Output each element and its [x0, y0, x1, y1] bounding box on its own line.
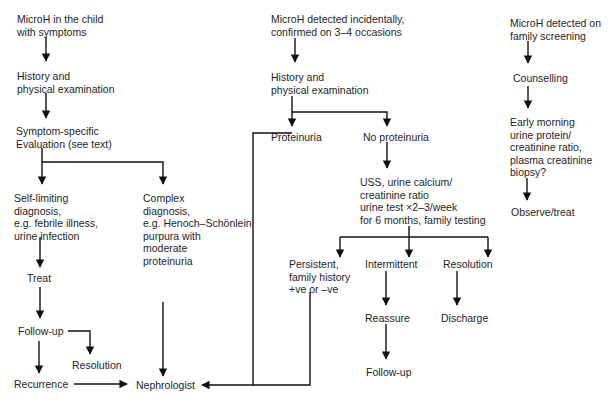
node-history-exam-2: History and physical examination: [271, 71, 368, 96]
node-counselling: Counselling: [513, 72, 568, 85]
node-treat: Treat: [27, 272, 51, 285]
node-recurrence: Recurrence: [14, 378, 68, 391]
node-follow-up-2: Follow-up: [366, 366, 412, 379]
node-history-exam-1: History and physical examination: [17, 70, 114, 95]
node-persistent: Persistent, family history +ve or –ve: [289, 258, 350, 296]
node-microh-incidental: MicroH detected incidentally, confirmed …: [271, 13, 404, 38]
node-resolution-2: Resolution: [443, 258, 493, 271]
node-uss-tests: USS, urine calcium/ creatinine ratio uri…: [360, 176, 485, 226]
node-no-proteinuria: No proteinuria: [363, 131, 429, 144]
node-intermittent: Intermittent: [365, 258, 418, 271]
node-proteinuria: Proteinuria: [271, 131, 322, 144]
node-microh-family: MicroH detected on family screening: [510, 17, 601, 42]
node-resolution-1: Resolution: [72, 359, 122, 372]
node-observe-treat: Observe/treat: [511, 206, 575, 219]
node-reassure: Reassure: [365, 312, 410, 325]
node-early-morning-tests: Early morning urine protein/ creatinine …: [510, 116, 592, 179]
node-complex-diagnosis: Complex diagnosis, e.g. Henoch–Schönlein…: [143, 192, 252, 267]
node-microh-symptoms: MicroH in the child with symptoms: [17, 13, 103, 38]
node-symptom-evaluation: Symptom-specific Evaluation (see text): [16, 125, 112, 150]
node-nephrologist: Nephrologist: [136, 379, 195, 392]
node-follow-up-1: Follow-up: [18, 325, 64, 338]
node-self-limiting: Self-limiting diagnosis, e.g. febrile il…: [14, 192, 98, 242]
node-discharge: Discharge: [441, 312, 488, 325]
